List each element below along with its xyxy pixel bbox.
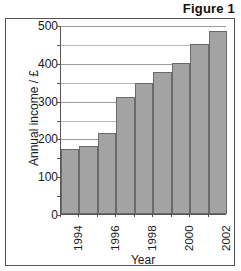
bar [135, 83, 153, 214]
x-axis-tick-labels: 19941996199820002002 [60, 217, 226, 253]
x-axis-title: Year [60, 253, 226, 267]
bar [172, 63, 190, 214]
bar [98, 133, 116, 214]
y-axis-tick-mark [57, 45, 61, 46]
x-axis-tick-mark [97, 213, 98, 217]
x-axis-tick-mark [152, 213, 153, 217]
bar [116, 97, 134, 214]
y-axis-tick-label: 300 [28, 96, 58, 108]
x-axis-tick-label: 1998 [147, 225, 159, 251]
y-axis-tick-mark [57, 83, 61, 84]
bar [190, 44, 208, 214]
bar [209, 31, 227, 214]
y-axis-tick-label: 500 [28, 20, 58, 32]
y-axis-tick-mark [57, 64, 61, 65]
y-axis-tick-mark [57, 196, 61, 197]
x-axis-tick-mark [171, 213, 172, 217]
y-axis-tick-mark [57, 177, 61, 178]
bar [61, 149, 79, 214]
x-axis-tick-mark [189, 213, 190, 217]
x-axis-tick-mark [208, 213, 209, 217]
x-axis-tick-mark [78, 213, 79, 217]
bar-series [61, 26, 226, 214]
y-axis-tick-mark [57, 26, 61, 27]
x-axis-tick-label: 1996 [110, 225, 122, 251]
y-axis-tick-mark [57, 102, 61, 103]
y-axis-tick-label: 400 [28, 58, 58, 70]
bar [153, 72, 171, 214]
y-axis-tick-mark [57, 139, 61, 140]
figure-caption: Figure 1 [183, 1, 235, 16]
plot-area [60, 26, 226, 215]
bar [79, 146, 97, 214]
x-axis-tick-label: 2000 [184, 225, 196, 251]
y-axis-tick-mark [57, 158, 61, 159]
y-axis-tick-label: 200 [28, 133, 58, 145]
chart-frame: Annual income / £ 0100200300400500 19941… [5, 18, 235, 266]
x-axis-tick-label: 1994 [73, 225, 85, 251]
y-axis-tick-labels: 0100200300400500 [28, 25, 58, 215]
x-axis-tick-mark [115, 213, 116, 217]
x-axis-tick-mark [60, 213, 61, 217]
x-axis-tick-label: 2002 [221, 225, 233, 251]
y-axis-tick-label: 0 [28, 209, 58, 221]
x-axis-tick-mark [134, 213, 135, 217]
y-axis-tick-label: 100 [28, 171, 58, 183]
y-axis-tick-mark [57, 121, 61, 122]
